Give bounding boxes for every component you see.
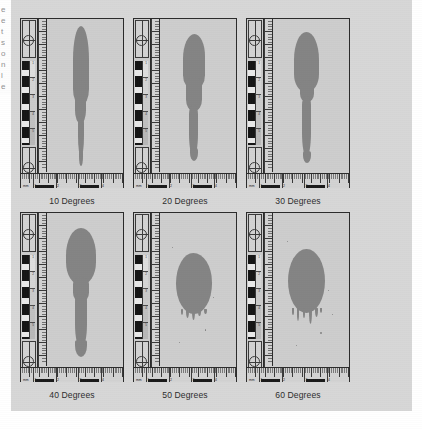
margin-glyph: o	[1, 49, 10, 58]
scale-card: 12345mm1234	[20, 18, 124, 188]
specimen-photo-area	[272, 19, 349, 172]
margin-glyph: e	[1, 82, 10, 91]
ruler-tick	[85, 368, 86, 377]
ruler-unit-label: mm	[249, 184, 255, 188]
scale-reference-column: 12345	[247, 213, 264, 381]
ruler-tick	[233, 174, 234, 179]
ruler-number-label: 4	[328, 378, 330, 382]
ruler-tick	[135, 174, 136, 179]
ruler-tick	[285, 174, 286, 179]
crosshair-horizontal	[249, 40, 262, 41]
crosshair-target-top	[22, 20, 36, 58]
wedge-step	[135, 70, 142, 76]
ruler-tick	[261, 368, 262, 373]
scale-reference-column: 12345	[21, 19, 38, 187]
ruler-tick	[255, 368, 256, 377]
density-patch: 2	[256, 78, 261, 95]
ruler-black-block	[35, 185, 54, 188]
satellite-spatter	[287, 241, 288, 242]
ruler-tick	[311, 174, 312, 183]
patch-index-label: 4	[32, 306, 34, 310]
crosshair-vertical	[255, 21, 256, 58]
ruler-tick	[315, 174, 316, 179]
panel-20-degrees: 12345mm123420 Degrees	[133, 18, 237, 208]
wedge-step	[248, 315, 255, 321]
bloodstain-body	[309, 308, 312, 324]
ruler-unit-label: mm	[136, 184, 142, 188]
satellite-spatter	[213, 297, 214, 298]
wedge-step	[135, 264, 142, 270]
bloodstain-body	[198, 309, 200, 316]
scanned-figure-page: eetsonle 12345mm123410 Degrees12345mm123…	[0, 0, 422, 429]
ruler-tick	[176, 174, 177, 179]
ruler-tick	[59, 174, 60, 179]
wedge-step	[22, 281, 29, 287]
scale-reference-column: 12345	[21, 213, 38, 381]
specimen-photo-area	[159, 213, 236, 366]
ruler-tick	[41, 368, 42, 373]
ruler-tick	[48, 368, 49, 377]
ruler-tick	[120, 368, 121, 373]
margin-glyph: e	[1, 16, 10, 25]
ruler-tick	[265, 316, 272, 317]
ruler-tick	[265, 122, 272, 123]
ruler-tick	[265, 290, 272, 291]
patch-index-label: 3	[145, 95, 147, 99]
patch-index-label: 3	[32, 95, 34, 99]
ruler-tick	[89, 174, 90, 179]
ruler-tick	[265, 96, 272, 97]
ruler-tick	[296, 368, 297, 373]
density-patch: 3	[30, 289, 35, 306]
panel-10-degrees: 12345mm123410 Degrees	[20, 18, 124, 208]
scale-reference-column: 12345	[134, 19, 151, 187]
ruler-tick	[41, 174, 42, 179]
crosshair-target-top	[248, 20, 262, 58]
ruler-tick	[74, 368, 75, 373]
ruler-tick	[172, 174, 173, 179]
ruler-tick	[152, 303, 159, 304]
ruler-tick	[44, 368, 45, 373]
patch-index-label: 5	[145, 323, 147, 327]
ruler-tick	[261, 174, 262, 179]
ruler-tick	[292, 174, 293, 183]
specimen-photo-area	[159, 19, 236, 172]
vertical-ruler	[151, 213, 159, 368]
ruler-unit-label: mm	[136, 378, 142, 382]
ruler-tick	[39, 122, 46, 123]
patch-index-label: 3	[32, 289, 34, 293]
ruler-tick	[116, 174, 117, 179]
ruler-number-label: 2	[170, 184, 172, 188]
ruler-tick	[39, 290, 46, 291]
ruler-tick	[152, 70, 159, 71]
ruler-tick	[222, 174, 223, 179]
ruler-tick	[152, 342, 159, 343]
patch-index-label: 1	[258, 255, 260, 259]
ruler-tick	[152, 329, 159, 330]
ruler-tick	[265, 83, 272, 84]
wedge-step	[135, 104, 142, 110]
ruler-tick	[198, 368, 199, 377]
wedge-step	[248, 121, 255, 127]
ruler-tick	[122, 368, 123, 377]
ruler-tick	[109, 174, 110, 179]
bloodstain-body	[190, 148, 198, 162]
ruler-tick	[348, 174, 349, 183]
ruler-tick	[265, 225, 272, 226]
bloodstain-body	[204, 309, 206, 314]
ruler-tick	[152, 355, 159, 356]
ruler-tick	[152, 225, 159, 226]
wedge-step	[22, 121, 29, 127]
ruler-tick	[152, 264, 159, 265]
patch-index-label: 5	[258, 323, 260, 327]
patch-index-label: 1	[32, 255, 34, 259]
bloodstain-body	[315, 308, 318, 317]
ruler-tick	[255, 174, 256, 183]
vertical-ruler	[38, 19, 46, 174]
ruler-black-block	[306, 185, 325, 188]
ruler-tick	[148, 174, 149, 179]
ruler-tick	[211, 368, 212, 373]
ruler-tick	[226, 174, 227, 183]
ruler-unit-label: mm	[23, 184, 29, 188]
ruler-tick	[59, 368, 60, 373]
patch-index-label: 4	[145, 112, 147, 116]
